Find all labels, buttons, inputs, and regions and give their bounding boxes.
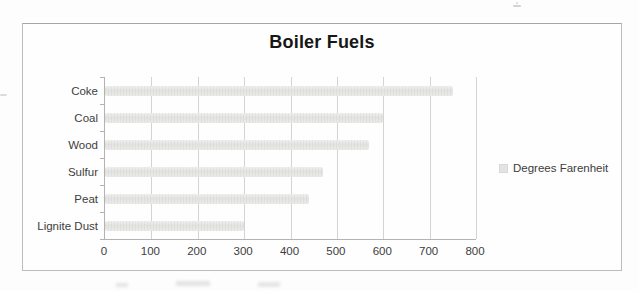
- chart-frame: Boiler Fuels CokeCoalWoodSulfurPeatLigni…: [22, 23, 622, 271]
- axis-tick-label: 100: [141, 244, 160, 259]
- axis-tick-label: 0: [101, 244, 107, 259]
- scan-artifact: [116, 283, 128, 287]
- chart-title: Boiler Fuels: [23, 32, 621, 53]
- legend: Degrees Farenheit: [499, 162, 608, 174]
- scan-artifact: [176, 281, 210, 286]
- axis-tick-label: 600: [373, 244, 392, 259]
- axis-tick-label: 800: [465, 244, 484, 259]
- axis-tick-label: 300: [234, 244, 253, 259]
- bar-row: [105, 212, 476, 239]
- bar-wood: [105, 140, 369, 150]
- value-axis-labels: 0100200300400500600700800: [104, 244, 475, 259]
- category-label: Coke: [23, 77, 98, 104]
- axis-tick-label: 700: [419, 244, 438, 259]
- axis-tick-mark: [100, 131, 105, 132]
- bar-sulfur: [105, 167, 323, 177]
- bars-layer: [105, 77, 476, 239]
- scanned-page: Boiler Fuels CokeCoalWoodSulfurPeatLigni…: [0, 0, 639, 291]
- bar-peat: [105, 194, 309, 204]
- category-label: Peat: [23, 185, 98, 212]
- bar-row: [105, 158, 476, 185]
- gridline: [476, 77, 477, 239]
- bar-coal: [105, 113, 383, 123]
- category-label: Wood: [23, 131, 98, 158]
- bar-coke: [105, 86, 453, 96]
- plot-area: [104, 77, 476, 240]
- axis-tick-mark: [100, 158, 105, 159]
- category-label: Coal: [23, 104, 98, 131]
- scan-artifact: [516, 2, 518, 4]
- axis-tick-mark: [100, 185, 105, 186]
- bar-lignite-dust: [105, 221, 244, 231]
- scan-artifact: [513, 5, 521, 7]
- axis-tick-label: 200: [187, 244, 206, 259]
- bar-row: [105, 104, 476, 131]
- bar-row: [105, 131, 476, 158]
- axis-tick-mark: [100, 239, 105, 240]
- legend-label: Degrees Farenheit: [513, 162, 608, 174]
- category-label: Sulfur: [23, 158, 98, 185]
- axis-tick-label: 400: [280, 244, 299, 259]
- legend-marker-icon: [499, 164, 508, 173]
- scan-artifact: [0, 94, 7, 96]
- axis-tick-mark: [100, 212, 105, 213]
- bar-row: [105, 185, 476, 212]
- axis-tick-label: 500: [326, 244, 345, 259]
- axis-tick-mark: [100, 77, 105, 78]
- scan-artifact: [258, 282, 280, 287]
- category-labels: CokeCoalWoodSulfurPeatLignite Dust: [23, 77, 98, 239]
- bar-row: [105, 77, 476, 104]
- category-label: Lignite Dust: [23, 212, 98, 239]
- axis-tick-mark: [100, 104, 105, 105]
